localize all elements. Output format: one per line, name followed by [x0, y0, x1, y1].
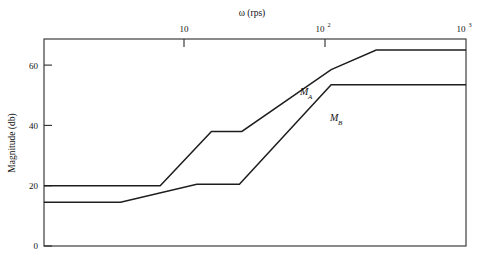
curve-label-m-b: M B — [329, 112, 343, 127]
curve-m-b — [44, 85, 466, 203]
x-axis-title: ω (rps) — [239, 8, 266, 19]
x-tick-label-100: 10 2 — [316, 21, 331, 34]
curve-label-m-a-sub: A — [307, 93, 313, 101]
y-axis-title: Magnitude (db) — [7, 113, 18, 172]
x-tick-label-100-base: 10 — [316, 24, 326, 34]
bode-plot-svg: ω (rps) 10 10 2 10 3 Magnitude (db) 0 20… — [0, 0, 494, 265]
x-tick-label-100-exponent: 2 — [327, 21, 330, 28]
y-tick-label-40: 40 — [29, 121, 39, 131]
x-tick-label-10: 10 — [180, 24, 190, 34]
bode-magnitude-figure: ω (rps) 10 10 2 10 3 Magnitude (db) 0 20… — [0, 0, 494, 265]
y-tick-label-20: 20 — [29, 181, 39, 191]
y-tick-label-0: 0 — [34, 241, 39, 251]
x-tick-label-1000: 10 3 — [457, 21, 472, 34]
plot-frame — [44, 39, 466, 246]
curve-m-a — [44, 50, 466, 186]
curve-label-m-a: M A — [299, 86, 313, 101]
x-tick-label-1000-base: 10 — [457, 24, 467, 34]
y-tick-label-60: 60 — [29, 61, 39, 71]
x-tick-label-1000-exponent: 3 — [468, 21, 471, 28]
curve-label-m-b-sub: B — [338, 119, 343, 127]
x-tick-label-10-base: 10 — [180, 24, 190, 34]
